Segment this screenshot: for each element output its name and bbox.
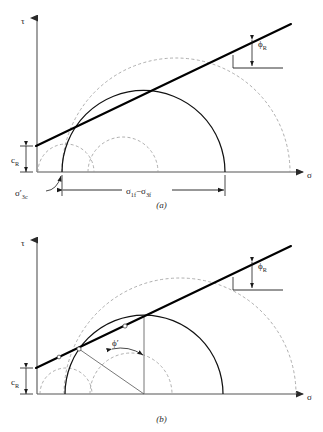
panel-b: τ σ ϕ′ ϕR cR (b) (0, 216, 323, 432)
confining-stress-leader-a (46, 176, 61, 191)
tangent-point-marker-2 (77, 347, 81, 351)
caption-a: (a) (0, 200, 323, 210)
mohr-diagram-a: τ σ ϕR cR σ′3c (0, 0, 323, 216)
tau-axis-label-b: τ (21, 238, 25, 248)
phi-prime-label-b: ϕ′ (112, 338, 119, 348)
dashed-circle-b-2 (90, 353, 172, 394)
dashed-circle-a-3 (62, 58, 290, 172)
sigma-axis-label-b: σ (307, 392, 312, 402)
phi-label-a: ϕR (258, 39, 268, 51)
mohr-diagram-b: τ σ ϕ′ ϕR cR (0, 216, 323, 432)
inclined-radius-b (79, 349, 144, 394)
tangent-point-marker-3 (123, 324, 127, 328)
phi-label-b: ϕR (258, 261, 268, 273)
tangent-point-marker-1 (57, 355, 61, 359)
caption-b: (b) (0, 414, 323, 424)
failure-envelope-a (36, 24, 291, 146)
dashed-circle-a-2 (88, 137, 158, 172)
tau-axis-label-a: τ (21, 16, 25, 26)
cohesion-label-a: cR (11, 155, 20, 167)
solid-circle-a (62, 90, 225, 172)
sigma-axis-label-a: σ (307, 170, 312, 180)
panel-a: τ σ ϕR cR σ′3c (0, 0, 323, 216)
confining-stress-label-a: σ′3c (15, 188, 28, 200)
failure-envelope-b (36, 246, 291, 368)
dashed-circle-b-3 (64, 278, 296, 394)
cohesion-label-b: cR (11, 377, 20, 389)
